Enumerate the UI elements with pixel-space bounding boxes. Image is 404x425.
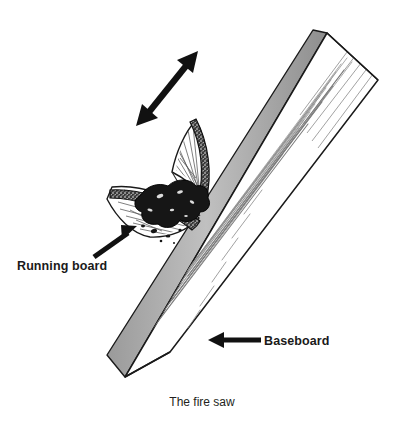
motion-arrow-shaft	[145, 61, 190, 117]
fire-saw-figure: Running board Baseboard The fire saw	[0, 0, 404, 425]
running-board-leader-head	[121, 225, 137, 240]
fire-saw-illustration: Running board Baseboard The fire saw	[0, 0, 404, 425]
baseboard-leader-head	[208, 332, 224, 348]
running-board-label: Running board	[17, 259, 107, 273]
figure-caption: The fire saw	[169, 395, 235, 409]
running-board-leader-arrow	[94, 225, 137, 257]
baseboard-label: Baseboard	[264, 334, 330, 348]
baseboard-leader-arrow	[208, 332, 261, 348]
motion-arrow	[136, 51, 198, 126]
